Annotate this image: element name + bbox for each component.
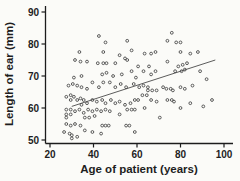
data-point	[100, 132, 103, 135]
data-point	[65, 113, 68, 116]
data-point	[96, 62, 99, 65]
data-point	[137, 99, 140, 102]
data-point	[69, 94, 72, 97]
data-point	[102, 62, 105, 65]
data-point	[83, 129, 86, 132]
data-point	[93, 115, 96, 118]
x-tick-label: 20	[44, 149, 56, 160]
data-point	[166, 99, 169, 102]
data-point	[83, 116, 86, 119]
data-point	[130, 49, 133, 52]
x-tick-label: 60	[131, 149, 143, 160]
data-point	[142, 84, 145, 87]
y-tick-label: 80	[28, 39, 40, 50]
data-point	[147, 89, 150, 92]
data-point	[166, 39, 169, 42]
scatter-chart: 506070809020406080100 Age of patient (ye…	[0, 0, 240, 181]
data-point	[189, 52, 192, 55]
data-point	[142, 70, 145, 73]
data-point	[65, 108, 68, 111]
data-point	[126, 39, 129, 42]
data-point	[74, 110, 77, 113]
data-point	[126, 108, 129, 111]
data-point	[177, 65, 180, 68]
data-point	[78, 108, 81, 111]
data-point	[199, 70, 202, 73]
data-point	[175, 41, 178, 44]
data-point	[114, 102, 117, 105]
data-point	[79, 60, 82, 63]
data-point	[165, 87, 168, 90]
data-point	[118, 100, 121, 103]
data-point	[154, 51, 157, 54]
data-point	[69, 99, 72, 102]
data-point	[101, 99, 104, 102]
data-point	[179, 51, 182, 54]
data-point	[154, 70, 157, 73]
data-point	[65, 123, 68, 126]
data-point	[82, 111, 85, 114]
data-point	[110, 99, 113, 102]
data-point	[91, 131, 94, 134]
data-point	[104, 41, 107, 44]
data-point	[119, 83, 122, 86]
data-point	[129, 102, 132, 105]
data-point	[179, 86, 182, 89]
data-point	[79, 97, 82, 100]
data-point	[76, 84, 79, 87]
data-point	[102, 81, 105, 84]
data-point	[124, 103, 127, 106]
data-point	[69, 124, 72, 127]
data-point	[105, 71, 108, 74]
data-point	[100, 110, 103, 113]
figure: 506070809020406080100 Age of patient (ye…	[0, 0, 240, 181]
data-point	[151, 89, 154, 92]
data-point	[82, 99, 85, 102]
data-point	[105, 62, 108, 65]
data-point	[181, 63, 184, 66]
data-point	[158, 116, 161, 119]
data-point	[65, 95, 68, 98]
y-tick-label: 70	[28, 71, 40, 82]
data-point	[86, 60, 89, 63]
data-point	[186, 62, 189, 65]
data-point	[79, 124, 82, 127]
data-point	[135, 76, 138, 79]
data-point	[91, 110, 94, 113]
data-point	[98, 35, 101, 38]
x-axis-title: Age of patient (years)	[80, 163, 198, 175]
data-point	[150, 73, 153, 76]
data-point	[170, 31, 173, 34]
data-point	[172, 89, 175, 92]
data-point	[173, 100, 176, 103]
data-point	[101, 73, 104, 76]
data-point	[107, 124, 110, 127]
data-point	[74, 59, 77, 62]
data-point	[183, 87, 186, 90]
data-point	[73, 95, 76, 98]
data-point	[130, 108, 133, 111]
data-point	[189, 102, 192, 105]
data-point	[86, 87, 89, 90]
data-point	[130, 70, 133, 73]
y-axis-title: Length of ear (mm)	[3, 22, 15, 126]
data-point	[211, 99, 214, 102]
data-point	[88, 116, 91, 119]
data-point	[118, 113, 121, 116]
data-point	[76, 135, 79, 138]
data-point	[71, 83, 74, 86]
data-point	[148, 65, 151, 68]
data-point	[179, 107, 182, 110]
data-point	[80, 86, 83, 89]
data-point	[114, 62, 117, 65]
data-point	[73, 76, 76, 79]
data-point	[114, 86, 117, 89]
data-point	[166, 60, 169, 63]
data-point	[132, 83, 135, 86]
data-point	[147, 86, 150, 89]
data-point	[202, 105, 205, 108]
data-point	[87, 108, 90, 111]
data-point	[108, 110, 111, 113]
data-point	[150, 52, 153, 55]
data-point	[67, 84, 70, 87]
